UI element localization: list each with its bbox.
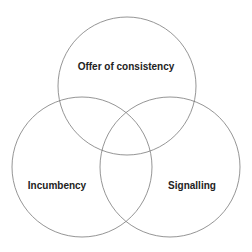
label-signalling: Signalling bbox=[168, 180, 216, 191]
circle-incumbency bbox=[12, 97, 152, 237]
circle-offer-of-consistency bbox=[58, 17, 196, 155]
venn-diagram bbox=[0, 0, 252, 252]
circle-signalling bbox=[100, 97, 240, 237]
label-incumbency: Incumbency bbox=[28, 180, 86, 191]
label-offer-of-consistency: Offer of consistency bbox=[78, 61, 175, 72]
